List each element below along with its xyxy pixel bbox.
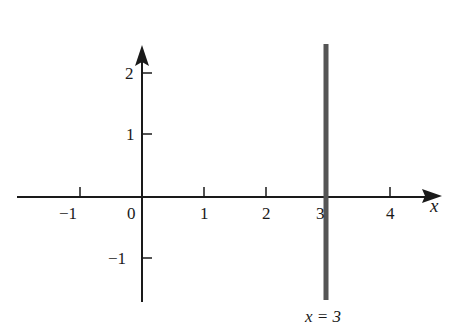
line-annotation: x = 3 <box>305 308 341 325</box>
x-ticks <box>80 187 390 197</box>
x-tick-label: −1 <box>59 205 77 222</box>
x-tick-label: 4 <box>386 205 395 222</box>
y-tick-label: −1 <box>108 250 126 267</box>
x-axis-label: x <box>430 197 438 214</box>
x-tick-label: 2 <box>262 205 271 222</box>
y-tick-label: 1 <box>126 126 135 143</box>
x-tick-label: 1 <box>200 205 209 222</box>
y-tick-label: 2 <box>125 65 134 82</box>
x-tick-label: 0 <box>127 205 136 222</box>
x-tick-label: 3 <box>316 205 325 222</box>
plot-canvas <box>0 0 460 336</box>
y-ticks <box>142 73 152 258</box>
